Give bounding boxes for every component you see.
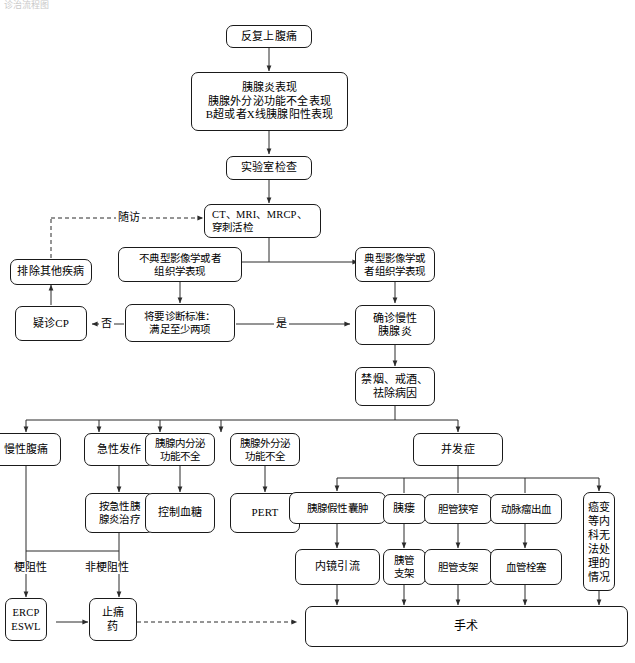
edge-label-yes: 是 [274, 317, 289, 330]
node-surgery[interactable]: 手术 [305, 606, 628, 647]
node-pancreatic-duct-stent[interactable]: 胰管 支架 [383, 549, 426, 585]
node-biliary-stricture[interactable]: 胆管狭窄 [424, 494, 492, 524]
node-acute-attack[interactable]: 急性发作 [84, 433, 154, 466]
node-pancreatic-pseudocyst[interactable]: 胰腺假性囊肿 [289, 492, 386, 524]
edge-label-no: 否 [99, 317, 114, 330]
node-confirmed-chronic-pancreatitis[interactable]: 确诊慢性 胰腺炎 [355, 305, 435, 345]
node-glucose-control[interactable]: 控制血糖 [145, 493, 215, 533]
node-typical-findings[interactable]: 典型影像学或 者组织学表现 [355, 247, 435, 282]
node-imaging-and-biopsy[interactable]: CT、MRI、MRCP、 穿刺活检 [204, 204, 321, 238]
node-laboratory-examination[interactable]: 实验室检查 [226, 156, 312, 180]
flowchart-canvas: 诊治流程图 [0, 0, 635, 663]
node-biliary-stent[interactable]: 胆管支架 [424, 549, 492, 585]
node-lifestyle-measures[interactable]: 禁烟、戒酒、 祛除病因 [355, 367, 435, 406]
node-aneurysm-bleeding[interactable]: 动脉瘤出血 [490, 494, 562, 524]
node-ercp-eswl[interactable]: ERCP ESWL [5, 598, 47, 641]
node-clinical-manifestations[interactable]: 胰腺炎表现 胰腺外分泌功能不全表现 B超或者X线胰腺阳性表现 [191, 72, 348, 131]
edge-label-obstructive: 梗阻性 [12, 561, 49, 574]
edge-label-follow-up: 随访 [116, 211, 142, 224]
node-analgesic-drug[interactable]: 止痛 药 [89, 598, 137, 641]
node-vascular-embolization[interactable]: 血管栓塞 [490, 549, 562, 585]
node-diagnostic-criteria[interactable]: 将要诊断标准： 满足至少两项 [125, 304, 235, 342]
edge-label-non-obstructive: 非梗阻性 [83, 561, 131, 574]
node-pancreatic-fistula[interactable]: 胰瘘 [383, 494, 426, 524]
node-complications[interactable]: 并发症 [413, 433, 503, 466]
node-endocrine-insufficiency[interactable]: 胰腺内分泌 功能不全 [145, 433, 215, 466]
node-treat-as-acute-pancreatitis[interactable]: 按急性胰 腺炎治疗 [85, 493, 154, 533]
node-exclude-other-diseases[interactable]: 排除其他疾病 [10, 259, 92, 285]
node-cancer-or-unmanageable-condition[interactable]: 癌变 等内 科无 法处 理的 情况 [583, 492, 615, 591]
corner-text-fragment: 诊治流程图 [4, 0, 49, 10]
node-atypical-findings[interactable]: 不典型影像学或者 组织学表现 [118, 247, 242, 282]
node-exocrine-insufficiency[interactable]: 胰腺外分泌 功能不全 [230, 433, 300, 466]
node-recurrent-upper-abdominal-pain[interactable]: 反复上腹痛 [226, 25, 312, 48]
node-endoscopic-drainage[interactable]: 内镜引流 [295, 549, 380, 585]
node-suspected-cp[interactable]: 疑诊CP [15, 306, 87, 341]
node-chronic-abdominal-pain[interactable]: 慢性腹痛 [0, 433, 61, 466]
